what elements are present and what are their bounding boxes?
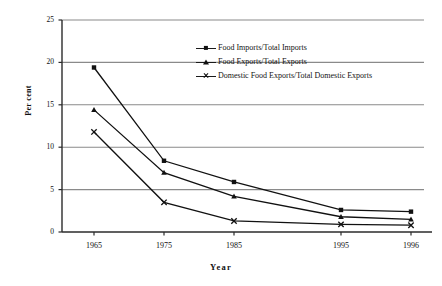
x-tick-label-1965: 1965 (71, 241, 117, 250)
legend-marker-triangle-icon (196, 56, 216, 68)
y-tick-label-0: 0 (30, 228, 54, 236)
x-axis-title: Year (0, 262, 442, 272)
x-tick-label-1995: 1995 (318, 241, 364, 250)
y-tick-label-15: 15 (30, 101, 54, 109)
legend-item-domestic-food-exports: Domestic Food Exports/Total Domestic Exp… (196, 69, 416, 83)
y-tick-label-20: 20 (30, 58, 54, 66)
x-tick-label-1985: 1985 (211, 241, 257, 250)
legend-item-food-imports: Food Imports/Total Imports (196, 41, 416, 55)
x-tick-label-1996: 1996 (388, 241, 434, 250)
legend-label-domestic-food-exports: Domestic Food Exports/Total Domestic Exp… (216, 71, 372, 81)
y-tick-label-10: 10 (30, 143, 54, 151)
series-line-2 (94, 132, 411, 225)
x-tick-label-1975: 1975 (141, 241, 187, 250)
marker-square-0-3 (339, 208, 343, 212)
series-line-1 (94, 110, 411, 219)
y-tick-label-25: 25 (30, 16, 54, 24)
legend-label-food-imports: Food Imports/Total Imports (216, 43, 307, 53)
legend-item-food-exports: Food Exports/Total Exports (196, 55, 416, 69)
legend-marker-x-icon (196, 70, 216, 82)
marker-square-0-1 (162, 159, 166, 163)
chart-legend: Food Imports/Total Imports Food Exports/… (196, 41, 416, 83)
chart-figure: Per cent Year 0510152025 196519751985199… (0, 0, 442, 286)
marker-square-0-0 (92, 65, 96, 69)
marker-triangle-1-0 (91, 107, 97, 112)
legend-label-food-exports: Food Exports/Total Exports (216, 57, 307, 67)
marker-square-0-2 (232, 180, 236, 184)
legend-marker-square-icon (196, 42, 216, 54)
marker-square-0-4 (409, 209, 413, 213)
y-tick-label-5: 5 (30, 186, 54, 194)
